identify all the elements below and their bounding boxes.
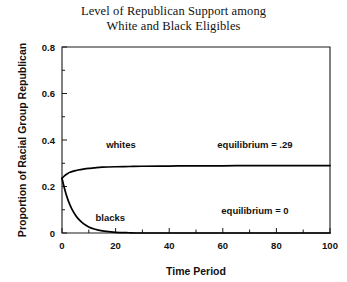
x-tick-label: 100: [322, 240, 338, 251]
chart-figure: Level of Republican Support among White …: [0, 0, 347, 282]
y-tick-label: 0: [50, 228, 55, 239]
y-axis-title: Proportion of Racial Group Republican: [16, 43, 28, 237]
chart-annotations: whitesblacksequilibrium = .29equilibrium…: [95, 139, 292, 223]
whites-equilibrium-note: equilibrium = .29: [217, 139, 292, 150]
whites-series-label: whites: [105, 139, 136, 150]
blacks-series-label: blacks: [95, 212, 125, 223]
y-tick-label: 0.4: [42, 135, 56, 146]
series-curve-whites: [62, 166, 330, 179]
y-tick-label: 0.6: [42, 88, 55, 99]
y-axis-ticks: 00.20.40.60.8: [42, 42, 67, 239]
y-tick-label: 0.2: [42, 181, 55, 192]
x-tick-label: 0: [59, 240, 64, 251]
blacks-equilibrium-note: equilibrium = 0: [221, 205, 288, 216]
x-tick-label: 20: [110, 240, 121, 251]
y-tick-label: 0.8: [42, 42, 55, 53]
x-tick-label: 80: [271, 240, 282, 251]
x-tick-label: 60: [218, 240, 229, 251]
series-curve-blacks: [62, 178, 330, 233]
x-tick-label: 40: [164, 240, 175, 251]
x-axis-title: Time Period: [166, 265, 226, 277]
plot-area: 00.20.40.60.8 020406080100 Proportion of…: [0, 0, 347, 282]
